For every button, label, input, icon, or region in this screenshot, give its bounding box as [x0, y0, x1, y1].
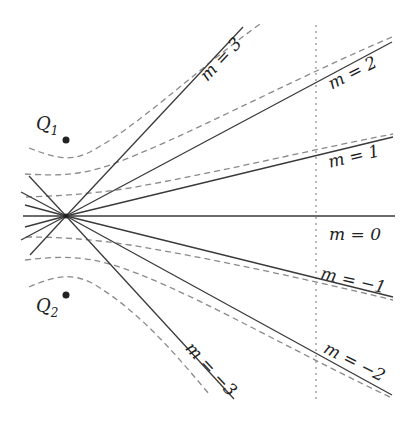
field-line-left-m-2 — [21, 216, 66, 240]
charge-q1-dot — [63, 137, 70, 144]
line-label-m-3: m = −3 — [181, 338, 241, 400]
charge-q2-dot — [63, 292, 70, 299]
charge-q1-label: Q1 — [36, 113, 58, 138]
field-line-left-m-1 — [25, 216, 66, 227]
charge-q2-label: Q2 — [36, 295, 58, 320]
line-label-m2: m = 2 — [325, 52, 380, 93]
dashed-curve-m-3 — [29, 277, 210, 395]
line-label-m0: m = 0 — [329, 224, 381, 244]
line-label-m3: m = 3 — [196, 33, 246, 85]
field-line-left-m-3 — [30, 216, 66, 255]
line-label-m-1: m = −1 — [319, 263, 388, 297]
origin-point — [64, 214, 69, 219]
field-line-left-m1 — [25, 205, 66, 216]
field-line-diagram: Q1 Q2 m = 3m = 2m = 1m = 0m = −1m = −2m … — [0, 0, 415, 426]
line-label-m1: m = 1 — [326, 141, 381, 172]
